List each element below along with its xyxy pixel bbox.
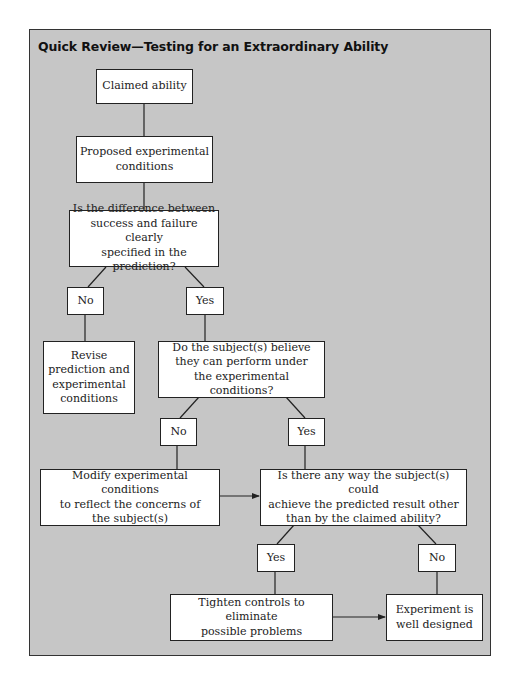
node-q3-no: No bbox=[418, 544, 456, 572]
node-q3-yes: Yes bbox=[257, 544, 295, 572]
node-modify-conditions: Modify experimental conditions to reflec… bbox=[40, 469, 220, 526]
node-claimed-ability: Claimed ability bbox=[96, 69, 193, 104]
node-experiment-well-designed: Experiment is well designed bbox=[386, 594, 483, 641]
node-question-other-way: Is there any way the subject(s) could ac… bbox=[260, 469, 467, 526]
node-q1-no: No bbox=[67, 287, 104, 315]
node-proposed-conditions: Proposed experimental conditions bbox=[76, 136, 213, 183]
node-revise-prediction: Revise prediction and experimental condi… bbox=[43, 341, 135, 414]
edge-q3-yes bbox=[277, 525, 294, 544]
node-question-specified: Is the difference between success and fa… bbox=[69, 210, 219, 267]
node-q1-yes: Yes bbox=[186, 287, 224, 315]
node-q2-yes: Yes bbox=[288, 418, 325, 446]
edge-q2-no bbox=[180, 397, 199, 418]
edge-q2-yes bbox=[286, 397, 305, 418]
node-q2-no: No bbox=[160, 418, 197, 446]
edge-q3-no bbox=[418, 525, 436, 544]
node-question-believe: Do the subject(s) believe they can perfo… bbox=[158, 341, 325, 398]
node-tighten-controls: Tighten controls to eliminate possible p… bbox=[170, 594, 333, 641]
